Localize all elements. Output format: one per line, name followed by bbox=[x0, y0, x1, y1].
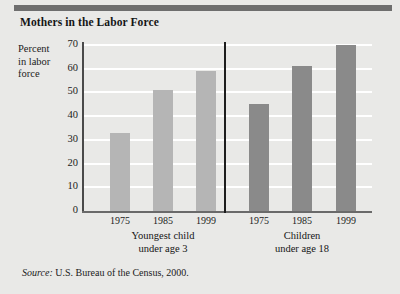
source-note-lead: Source: bbox=[22, 267, 53, 278]
bar-1-1975 bbox=[249, 104, 269, 211]
x-tick-label-0-1975: 1975 bbox=[98, 215, 142, 226]
source-note: Source: U.S. Bureau of the Census, 2000. bbox=[22, 267, 189, 278]
gridline-50 bbox=[84, 91, 372, 93]
bar-0-1999 bbox=[196, 71, 216, 211]
source-note-text: U.S. Bureau of the Census, 2000. bbox=[53, 267, 189, 278]
figure-title: Mothers in the Labor Force bbox=[20, 16, 159, 28]
x-tick-label-1-1999: 1999 bbox=[324, 215, 368, 226]
group-caption-1: Childrenunder age 18 bbox=[227, 230, 377, 255]
x-tick-label-0-1999: 1999 bbox=[184, 215, 228, 226]
group-caption-1-line-0: Children bbox=[227, 230, 377, 243]
gridline-60 bbox=[84, 68, 372, 70]
bar-0-1975 bbox=[110, 133, 130, 211]
y-tick-label-10: 10 bbox=[52, 180, 78, 191]
x-tick-label-0-1985: 1985 bbox=[141, 215, 185, 226]
y-tick-label-20: 20 bbox=[52, 157, 78, 168]
figure-container: Mothers in the Labor Force Percent in la… bbox=[0, 0, 400, 294]
y-tick-label-60: 60 bbox=[52, 62, 78, 73]
y-tick-label-40: 40 bbox=[52, 109, 78, 120]
y-tick-label-30: 30 bbox=[52, 133, 78, 144]
bar-0-1985 bbox=[153, 90, 173, 211]
bar-1-1999 bbox=[336, 45, 356, 211]
group-caption-0-line-1: under age 3 bbox=[88, 243, 238, 256]
group-caption-1-line-1: under age 18 bbox=[227, 243, 377, 256]
group-caption-0: Youngest childunder age 3 bbox=[88, 230, 238, 255]
y-tick-label-0: 0 bbox=[52, 204, 78, 215]
top-rule-divider bbox=[14, 5, 392, 11]
group-divider-line bbox=[224, 42, 226, 213]
gridline-40 bbox=[84, 115, 372, 117]
plot-area bbox=[84, 45, 372, 211]
x-tick-label-1-1975: 1975 bbox=[237, 215, 281, 226]
x-tick-label-1-1985: 1985 bbox=[280, 215, 324, 226]
y-tick-label-70: 70 bbox=[52, 38, 78, 49]
bar-1-1985 bbox=[292, 66, 312, 211]
gridline-70 bbox=[84, 44, 372, 46]
group-caption-0-line-0: Youngest child bbox=[88, 230, 238, 243]
y-tick-label-50: 50 bbox=[52, 85, 78, 96]
x-axis-line bbox=[82, 211, 372, 213]
